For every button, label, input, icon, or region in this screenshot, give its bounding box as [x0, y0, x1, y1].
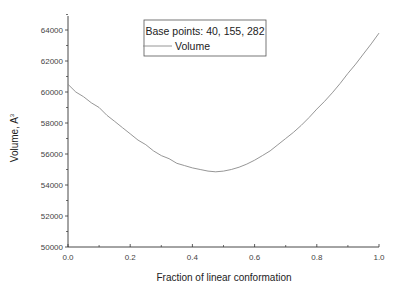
- y-tick-label: 54000: [41, 181, 64, 190]
- y-axis-title-text: Volume, A: [9, 117, 20, 162]
- y-tick-label: 60000: [41, 88, 64, 97]
- legend-title: Base points: 40, 155, 282: [145, 25, 264, 37]
- y-tick-label: 64000: [41, 26, 64, 35]
- y-axis-title: Volume, A3: [9, 113, 20, 162]
- x-axis-title: Fraction of linear conformation: [156, 272, 291, 283]
- legend: Base points: 40, 155, 282 Volume: [143, 20, 266, 56]
- y-tick-label: 52000: [41, 212, 64, 221]
- y-tick-label: 56000: [41, 150, 64, 159]
- y-tick-label: 58000: [41, 119, 64, 128]
- y-axis-title-superscript: 3: [9, 113, 15, 117]
- x-tick-label: 1.0: [373, 253, 385, 262]
- x-tick-label: 0.6: [249, 253, 261, 262]
- x-tick-label: 0.0: [62, 253, 74, 262]
- x-tick-label: 0.4: [187, 253, 199, 262]
- y-ticks: 5000052000540005600058000600006200064000: [41, 15, 68, 253]
- x-tick-label: 0.8: [311, 253, 323, 262]
- legend-label-volume: Volume: [175, 40, 210, 52]
- x-tick-label: 0.2: [125, 253, 137, 262]
- y-tick-label: 50000: [41, 243, 64, 252]
- y-tick-label: 62000: [41, 57, 64, 66]
- chart: 5000052000540005600058000600006200064000…: [0, 0, 398, 297]
